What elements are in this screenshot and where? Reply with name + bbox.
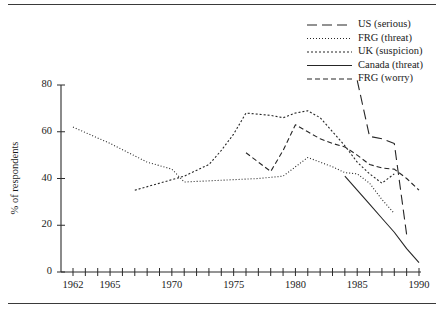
legend-label: FRG (threat) <box>358 32 412 44</box>
series-group <box>73 80 419 262</box>
series-line <box>345 176 419 262</box>
x-tick-label: 1965 <box>90 280 130 291</box>
legend-label: US (serious) <box>358 18 411 30</box>
y-tick-label: 40 <box>0 173 52 184</box>
axis-group <box>57 85 421 276</box>
x-tick-label: 1962 <box>53 280 93 291</box>
x-tick-label: 1970 <box>152 280 192 291</box>
legend: US (serious)FRG (threat)UK (suspicion)Ca… <box>307 18 424 84</box>
legend-label: Canada (threat) <box>358 59 424 71</box>
y-tick-label: 20 <box>0 219 52 230</box>
legend-label: UK (suspicion) <box>358 45 423 57</box>
series-line <box>246 125 419 190</box>
x-tick-label: 1975 <box>214 280 254 291</box>
x-tick-label: 1990 <box>399 280 439 291</box>
y-tick-label: 0 <box>0 266 52 277</box>
series-line <box>135 111 395 190</box>
x-tick-label: 1980 <box>275 280 315 291</box>
series-line <box>73 127 394 213</box>
figure-container: % of respondents US (serious)FRG (threat… <box>0 0 444 318</box>
series-line <box>357 80 406 234</box>
legend-label: FRG (worry) <box>358 72 414 84</box>
x-tick-label: 1985 <box>337 280 377 291</box>
line-chart: % of respondents US (serious)FRG (threat… <box>0 0 444 318</box>
y-tick-label: 80 <box>0 79 52 90</box>
y-tick-label: 60 <box>0 126 52 137</box>
